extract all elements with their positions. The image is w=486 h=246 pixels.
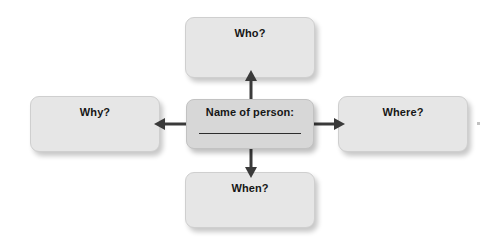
node-why-label: Why? — [31, 97, 159, 118]
arrow-left-icon — [152, 114, 188, 134]
name-write-line[interactable] — [199, 133, 301, 134]
arrow-up-icon — [241, 69, 261, 102]
node-when[interactable]: When? — [185, 172, 315, 228]
arrow-right-icon — [311, 114, 347, 134]
node-why[interactable]: Why? — [30, 96, 160, 152]
arrow-down-icon — [241, 146, 261, 179]
node-where-label: Where? — [339, 97, 467, 118]
node-where[interactable]: Where? — [338, 96, 468, 152]
node-center-name-of-person[interactable]: Name of person: — [186, 99, 314, 149]
node-center-label: Name of person: — [187, 100, 313, 118]
diagram-canvas: Who? Why? Where? When? Name of person: — [0, 0, 486, 246]
scan-artifact-speck — [477, 122, 480, 125]
node-who-label: Who? — [186, 18, 314, 39]
